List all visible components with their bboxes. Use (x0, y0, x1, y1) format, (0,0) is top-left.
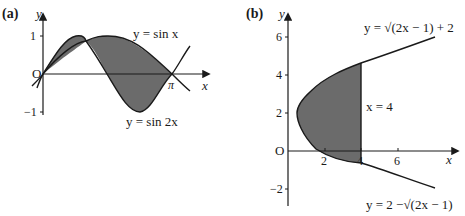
y-tick-1-a: 1 (30, 29, 36, 43)
y-tick-neg2-b: −2 (270, 182, 283, 196)
x-tick-6-b: 6 (394, 154, 400, 168)
x-axis-label-a: x (201, 78, 208, 93)
x-tick-2-b: 2 (321, 154, 327, 168)
y-tick-2-b: 2 (276, 106, 282, 120)
line-label-x4: x = 4 (366, 99, 393, 114)
x-tick-pi-a: π (168, 78, 175, 92)
y-axis-label-a: y (34, 6, 42, 21)
figure-canvas: (a) y x O 1 −1 π y = sin x y = sin 2x (b… (0, 0, 465, 216)
curve-label-sin-2x: y = sin 2x (126, 114, 178, 129)
y-axis-label-b: y (277, 6, 285, 21)
panel-b-label: (b) (246, 6, 263, 22)
y-tick-6-b: 6 (276, 30, 282, 44)
panel-b: (b) y x O 6 4 2 −2 2 4 6 y = √(2x − 1) +… (246, 6, 458, 212)
panel-a-label: (a) (2, 6, 19, 22)
curve-label-sin-x: y = sin x (133, 26, 179, 41)
y-tick-4-b: 4 (276, 68, 282, 82)
x-tick-4-b: 4 (357, 154, 363, 168)
y-tick-neg1-a: −1 (24, 105, 37, 119)
curve-label-lower: y = 2 −√(2x − 1) (366, 197, 453, 212)
curve-label-upper: y = √(2x − 1) + 2 (364, 20, 454, 35)
x-axis-label-b: x (445, 152, 452, 167)
origin-label-a: O (32, 66, 41, 81)
origin-label-b: O (275, 143, 284, 158)
panel-a: (a) y x O 1 −1 π y = sin x y = sin 2x (2, 6, 209, 129)
